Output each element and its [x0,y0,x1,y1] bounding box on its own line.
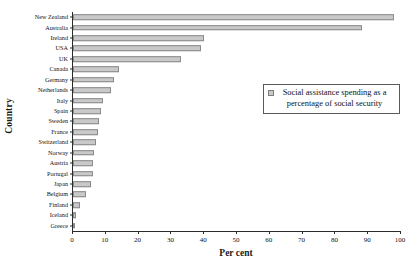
bar [73,46,201,52]
y-axis-tick [70,27,73,28]
category-label: Italy [57,98,68,104]
y-axis-tick [70,69,73,70]
y-axis-tick [70,215,73,216]
y-axis-title: Country [0,0,18,232]
category-label: USA [56,45,68,51]
x-axis-title: Per cent [72,248,400,258]
category-label: Canada [49,66,68,72]
y-axis-tick [70,121,73,122]
legend-label: Social assistance spending as a percenta… [277,88,392,109]
category-label: Iceland [50,212,68,218]
y-axis-tick [70,79,73,80]
bar [73,160,93,166]
bar-row: New Zealand [72,12,400,22]
bar [73,98,103,104]
x-axis-tick [170,231,171,234]
y-axis-tick [70,225,73,226]
y-axis-tick [70,48,73,49]
bar-row: Iceland [72,210,400,220]
bar [73,25,362,31]
bar [73,129,98,135]
y-axis-tick [70,142,73,143]
bar [73,77,114,83]
x-axis-tick [302,231,303,234]
y-axis-tick [70,38,73,39]
bar [73,223,75,229]
plot-area: New ZealandAustraliaIrelandUSAUKCanadaGe… [72,12,400,231]
x-axis-tick [367,231,368,234]
bar-row: Belgium [72,189,400,199]
x-axis-tick [269,231,270,234]
category-label: Greece [50,223,68,229]
y-axis-tick [70,184,73,185]
bar [73,192,86,198]
x-axis-tick-label: 20 [134,236,141,244]
category-label: France [51,129,68,135]
x-axis-tick-label: 30 [167,236,174,244]
category-label: Australia [45,25,68,31]
bar [73,213,76,219]
category-label: Ireland [50,35,68,41]
bar-row: Norway [72,148,400,158]
category-label: Sweden [48,118,68,124]
category-label: UK [59,56,68,62]
x-axis-tick-label: 80 [331,236,338,244]
bar-row: Greece [72,221,400,231]
x-axis-tick-label: 60 [265,236,272,244]
bar [73,87,111,93]
category-label: Germany [45,77,68,83]
x-axis-tick [236,231,237,234]
x-axis-tick-label: 70 [298,236,305,244]
bar-chart: Country New ZealandAustraliaIrelandUSAUK… [0,0,420,276]
bar [73,171,93,177]
bar [73,108,101,114]
category-label: Norway [48,150,68,156]
bar-row: Ireland [72,33,400,43]
y-axis-tick [70,204,73,205]
bar-row: UK [72,54,400,64]
category-label: Austria [50,160,68,166]
bar-row: Canada [72,64,400,74]
bar-row: Australia [72,22,400,32]
x-axis-tick-label: 50 [233,236,240,244]
y-axis-tick [70,152,73,153]
category-label: Belgium [47,191,68,197]
x-axis-tick [400,231,401,234]
bar-row: Finland [72,200,400,210]
bar-row: France [72,127,400,137]
category-label: Finland [49,202,68,208]
y-axis-tick [70,90,73,91]
bar [73,119,99,125]
bar [73,14,394,20]
legend-swatch-icon [268,90,274,96]
x-axis-tick-label: 0 [70,236,74,244]
category-label: Japan [54,181,68,187]
y-axis-tick [70,17,73,18]
y-axis-tick [70,131,73,132]
y-axis-tick [70,194,73,195]
y-axis-title-label: Country [4,98,14,134]
bar-row: Sweden [72,116,400,126]
y-axis-tick [70,163,73,164]
bar-row: Japan [72,179,400,189]
x-axis-tick [105,231,106,234]
y-axis-tick [70,173,73,174]
bar [73,67,119,73]
y-axis-tick [70,111,73,112]
category-label: Switzerland [38,139,68,145]
category-label: Spain [54,108,68,114]
bar [73,150,94,156]
bar [73,202,80,208]
bar-row: Switzerland [72,137,400,147]
bar [73,56,181,62]
category-label: New Zealand [35,14,68,20]
bar-row: Austria [72,158,400,168]
y-axis-tick [70,58,73,59]
x-axis-tick-label: 90 [364,236,371,244]
bar [73,35,204,41]
y-axis-tick [70,100,73,101]
x-axis-tick-label: 100 [395,236,406,244]
category-label: Portugal [47,171,68,177]
x-axis-tick [334,231,335,234]
x-axis-tick [72,231,73,234]
